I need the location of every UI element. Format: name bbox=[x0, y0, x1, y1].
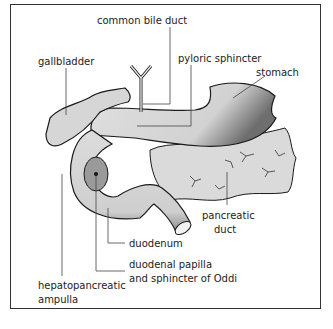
label-papilla-1: duodenal papilla bbox=[129, 258, 212, 271]
label-pyloric-sphincter: pyloric sphincter bbox=[178, 52, 261, 65]
label-gallbladder: gallbladder bbox=[38, 55, 94, 68]
label-ampulla-1: hepatopancreatic bbox=[38, 279, 126, 292]
label-stomach: stomach bbox=[256, 66, 299, 79]
label-pancreatic-duct-1: pancreatic bbox=[202, 209, 255, 222]
label-duodenum: duodenum bbox=[129, 237, 183, 250]
label-ampulla-2: ampulla bbox=[38, 293, 78, 306]
label-common-bile-duct: common bile duct bbox=[97, 14, 187, 27]
label-papilla-2: and sphincter of Oddi bbox=[129, 272, 237, 285]
label-pancreatic-duct-2: duct bbox=[214, 223, 236, 236]
